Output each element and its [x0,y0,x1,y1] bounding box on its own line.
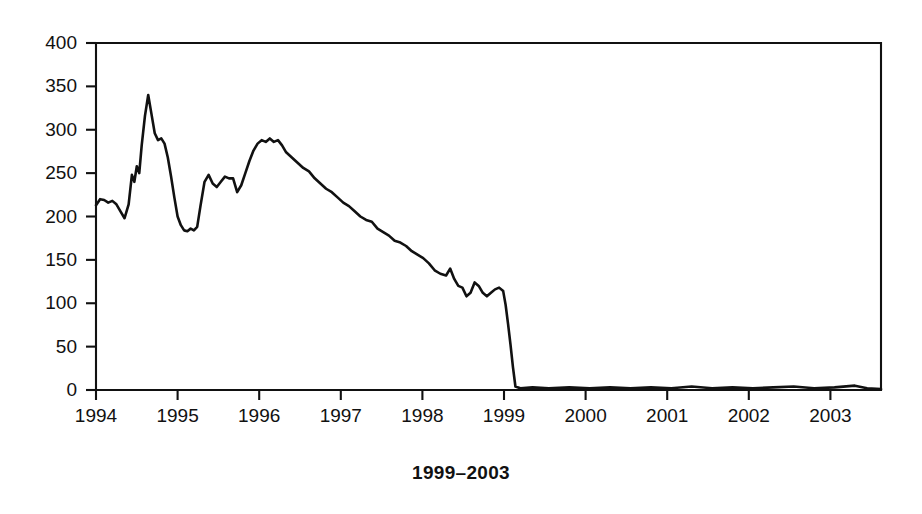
y-tick-label: 0 [66,379,77,400]
x-tick-label: 1997 [320,405,362,426]
y-tick-label: 200 [45,206,77,227]
x-axis-tick-labels: 1994199519961997199819992000200120022003 [75,405,852,426]
x-tick-label: 1999 [483,405,525,426]
y-tick-label: 350 [45,75,77,96]
x-tick-label: 2002 [728,405,770,426]
y-tick-label: 100 [45,292,77,313]
figure-container: 050100150200250300350400 199419951996199… [0,0,922,514]
data-series-line [96,95,881,389]
y-tick-label: 250 [45,162,77,183]
x-tick-label: 1995 [156,405,198,426]
x-tick-label: 1994 [75,405,118,426]
x-tick-label: 1996 [238,405,280,426]
y-tick-label: 50 [56,336,77,357]
y-tick-label: 300 [45,119,77,140]
plot-frame [96,43,881,390]
y-axis-tick-labels: 050100150200250300350400 [45,32,77,400]
y-tick-label: 150 [45,249,77,270]
x-tick-label: 2001 [646,405,688,426]
y-axis-tick-marks [86,43,96,390]
x-tick-label: 2000 [564,405,606,426]
figure-caption: 1999–2003 [0,462,922,484]
x-tick-label: 1998 [401,405,443,426]
y-tick-label: 400 [45,32,77,53]
x-tick-label: 2003 [809,405,851,426]
x-axis-tick-marks [96,390,830,400]
line-chart: 050100150200250300350400 199419951996199… [0,0,922,450]
